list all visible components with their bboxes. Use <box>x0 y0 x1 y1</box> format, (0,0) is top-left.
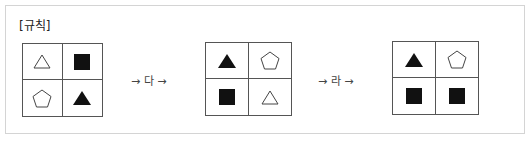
grid-cell <box>249 79 292 115</box>
grid-cell <box>206 79 249 115</box>
grid-cell <box>63 80 103 116</box>
grid-cell <box>393 78 436 114</box>
grid-initial <box>22 43 103 117</box>
filled-square-icon <box>74 54 90 70</box>
outline-triangle-icon <box>33 54 51 69</box>
rule-title: [규칙] <box>19 16 50 33</box>
grid-cell <box>393 42 436 78</box>
filled-triangle-icon <box>218 54 236 68</box>
filled-triangle-icon <box>73 91 91 105</box>
grid-cell <box>23 80 63 116</box>
filled-triangle-icon <box>405 53 423 67</box>
grid-after-da <box>205 42 292 116</box>
grid-after-ra <box>392 41 479 115</box>
filled-square-icon <box>219 89 235 105</box>
grid-cell <box>206 43 249 79</box>
outline-triangle-icon <box>261 90 279 105</box>
outline-pentagon-icon <box>447 50 467 69</box>
grid-cell <box>63 44 103 80</box>
filled-square-icon <box>449 88 465 104</box>
grid-cell <box>436 42 479 78</box>
grid-cell <box>436 78 479 114</box>
grid-cell <box>23 44 63 80</box>
grid-cell <box>249 43 292 79</box>
transform-ra-arrow: → 라 → <box>318 72 353 88</box>
transform-da-arrow: → 다 → <box>131 72 166 88</box>
outline-pentagon-icon <box>32 89 52 108</box>
filled-square-icon <box>406 88 422 104</box>
outline-pentagon-icon <box>260 51 280 70</box>
